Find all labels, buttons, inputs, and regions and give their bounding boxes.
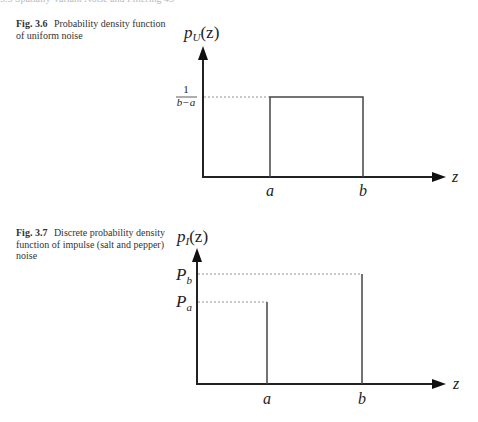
- y-axis-arrowhead: [198, 46, 208, 60]
- y-axis-label: pU(z): [183, 23, 219, 43]
- y-axis-label: pI(z): [176, 227, 208, 247]
- impulse-pdf-chart: pI(z) z Pb Pa a b: [175, 227, 460, 407]
- level-label-pa: Pa: [175, 292, 192, 313]
- level-numerator: 1: [183, 83, 189, 95]
- x-tick-a: a: [263, 390, 271, 407]
- x-axis-label: z: [451, 168, 459, 185]
- x-tick-a: a: [266, 182, 274, 199]
- x-axis-label: z: [452, 375, 460, 392]
- uniform-pdf-chart: pU(z) z 1 b−a a b: [176, 23, 459, 199]
- y-axis-arrowhead: [192, 248, 202, 262]
- figures-canvas: pU(z) z 1 b−a a b pI(z) z Pb: [0, 0, 478, 422]
- x-tick-b: b: [359, 182, 367, 199]
- x-axis-arrowhead: [432, 379, 446, 389]
- x-axis-arrowhead: [432, 172, 446, 182]
- level-label-pb: Pb: [175, 265, 192, 286]
- x-tick-b: b: [358, 390, 366, 407]
- uniform-density-box: [270, 97, 363, 177]
- level-denominator: b−a: [177, 96, 196, 108]
